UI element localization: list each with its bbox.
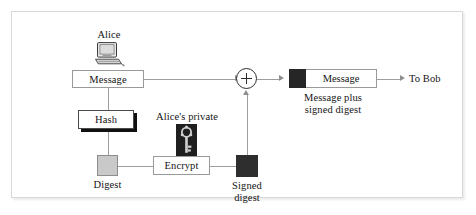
connector-output-to-bob [377,79,402,80]
output-message-label: Message [323,73,360,84]
connector-signed-digest-to-combiner [247,95,248,155]
output-caption-line2: signed digest [287,104,379,116]
arrowhead-output-to-bob [400,75,405,81]
message-box-label: Message [89,74,126,85]
connector-encrypt-to-signed-digest [210,166,236,167]
digest-square [97,155,118,176]
computer-icon [93,42,125,67]
signed-digest-square [236,155,258,177]
diagram-frame: Alice Message [11,11,463,198]
diagram-canvas: Alice Message [0,0,476,215]
hash-box-label: Hash [95,114,117,125]
digest-label: Digest [86,179,129,191]
arrowhead-signed-digest-to-combiner [243,90,249,95]
connector-message-to-combiner [144,79,237,80]
output-signed-digest-chunk [289,69,306,88]
destination-label: To Bob [409,73,441,85]
sender-label: Alice [88,29,130,41]
signed-digest-label-line2: digest [222,192,272,204]
arrowhead-combiner-to-output [279,75,284,81]
encrypt-box-label: Encrypt [165,160,199,171]
signed-digest-label-line1: Signed [222,180,272,192]
output-message-block: Message [289,69,377,88]
connector-digest-to-encrypt [118,166,153,167]
key-icon [176,124,197,156]
connector-hash-to-digest [108,132,109,155]
message-box: Message [72,70,144,88]
connector-combiner-to-output [257,79,281,80]
hash-box: Hash [78,110,134,129]
encrypt-box: Encrypt [153,156,210,175]
output-caption-line1: Message plus [287,92,379,104]
private-key-caption: Alice's private [137,111,237,123]
connector-message-to-hash [108,88,109,110]
output-message-part: Message [306,69,377,88]
plus-circle-icon [236,68,257,89]
